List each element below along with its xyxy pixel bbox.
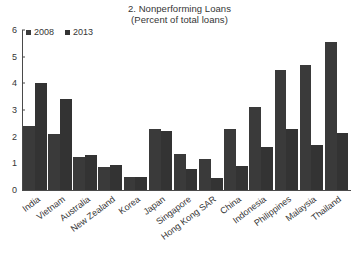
y-tick-label-3: 3 <box>12 106 17 115</box>
bar-group-vietnam <box>48 30 73 190</box>
bar-group-hong-kong-sar <box>199 30 224 190</box>
bar-group-new-zealand <box>98 30 123 190</box>
legend-item-2013: 2013 <box>65 27 93 37</box>
bar-group-china <box>224 30 249 190</box>
y-tick-label-1: 1 <box>12 159 17 168</box>
bar-group-india <box>23 30 48 190</box>
legend-swatch-icon <box>65 30 70 35</box>
bar-philippines-2008 <box>275 70 287 190</box>
chart-title: 2. Nonperforming Loans <box>0 3 359 14</box>
y-tick-label-5: 5 <box>12 52 17 61</box>
y-tick-label-2: 2 <box>12 132 17 141</box>
bar-group-australia <box>73 30 98 190</box>
y-tick-label-4: 4 <box>12 79 17 88</box>
bar-vietnam-2013 <box>60 99 72 190</box>
bar-india-2008 <box>23 126 35 190</box>
legend-item-2008: 2008 <box>26 27 54 37</box>
legend-label: 2008 <box>34 27 54 37</box>
bar-japan-2013 <box>161 131 173 190</box>
bar-group-philippines <box>275 30 300 190</box>
y-tick-label-6: 6 <box>12 26 17 35</box>
bar-malaysia-2008 <box>300 65 312 190</box>
bar-indonesia-2013 <box>261 147 273 190</box>
chart-figure: 2. Nonperforming Loans (Percent of total… <box>0 0 359 264</box>
bar-group-korea <box>124 30 149 190</box>
bar-group-singapore <box>174 30 199 190</box>
bar-india-2013 <box>35 83 47 190</box>
chart-title-block: 2. Nonperforming Loans (Percent of total… <box>0 3 359 25</box>
bar-vietnam-2008 <box>48 134 60 190</box>
legend-swatch-icon <box>26 30 31 35</box>
bar-plot-area <box>23 30 350 190</box>
bar-indonesia-2008 <box>249 107 261 190</box>
legend-label: 2013 <box>73 27 93 37</box>
x-axis-category-labels: IndiaVietnamAustraliaNew ZealandKoreaJap… <box>0 190 359 264</box>
chart-subtitle: (Percent of total loans) <box>0 14 359 25</box>
bar-group-malaysia <box>300 30 325 190</box>
bar-group-thailand <box>325 30 350 190</box>
bar-thailand-2008 <box>325 42 337 190</box>
chart-legend: 20082013 <box>26 27 93 37</box>
